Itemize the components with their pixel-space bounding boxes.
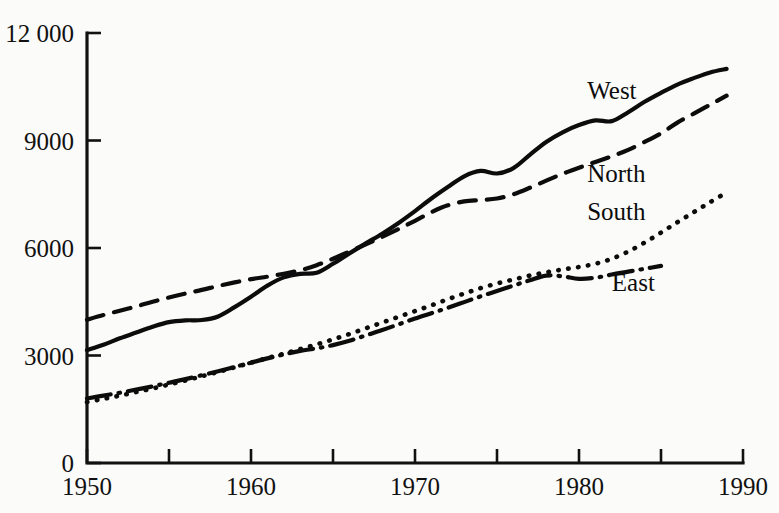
data-series-group <box>87 69 727 402</box>
x-tick-label-3: 1980 <box>554 473 604 500</box>
axis-frame <box>87 33 743 463</box>
series-label-west: West <box>587 77 636 104</box>
x-axis-tick-labels: 19501960197019801990 <box>62 473 768 500</box>
axis-tick-marks <box>87 33 743 463</box>
chart-canvas: 030006000900012 000 19501960197019801990… <box>0 0 779 513</box>
axis-lines <box>87 33 743 463</box>
y-tick-label-2: 6000 <box>24 235 74 262</box>
line-chart-figure: 030006000900012 000 19501960197019801990… <box>0 0 779 513</box>
x-tick-label-4: 1990 <box>718 473 768 500</box>
y-tick-label-1: 3000 <box>24 343 74 370</box>
x-tick-label-1: 1960 <box>226 473 276 500</box>
series-label-south: South <box>587 198 646 225</box>
series-label-north: North <box>587 160 646 187</box>
y-tick-label-4: 12 000 <box>5 20 74 47</box>
y-axis-tick-labels: 030006000900012 000 <box>5 20 74 477</box>
x-tick-label-2: 1970 <box>390 473 440 500</box>
y-tick-label-3: 9000 <box>24 128 74 155</box>
x-tick-label-0: 1950 <box>62 473 112 500</box>
series-line-east <box>87 266 661 399</box>
series-label-east: East <box>612 269 655 296</box>
